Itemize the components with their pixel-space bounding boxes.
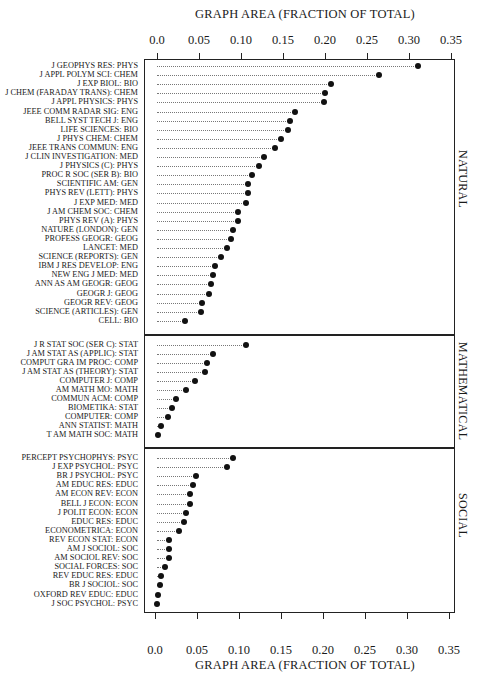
top-tick-mark [157,53,158,59]
row-label: J EXP PSYCHOL: PSYC [52,462,138,471]
leader-line [157,390,186,391]
leader-line [157,312,201,313]
top-axis-title: GRAPH AREA (FRACTION OF TOTAL) [150,7,460,22]
row-label: AM EDUC RES: EDUC [56,480,138,489]
row-label: BR J SOCIOL: SOC [69,580,138,589]
data-point [218,254,224,260]
bottom-tick-mark [155,613,156,619]
data-point [187,501,193,507]
data-point [235,218,241,224]
row-label: ECONOMETRICA: ECON [45,526,138,535]
leader-line [157,212,238,213]
row-label: AM ECON REV: ECON [55,489,138,498]
row-label: NEW ENG J MED: MED [52,270,139,279]
row-label: JEEE TRANS COMMUN: ENG [29,143,138,152]
leader-line [157,139,281,140]
data-point [249,172,255,178]
leader-line [157,75,379,76]
row-label: COMPUTER: COMP [65,412,138,421]
row-label: PHYS REV (A): PHYS [59,216,138,225]
plot-area [144,59,455,613]
row-label: JEEE COMM RADAR SIG: ENG [23,107,138,116]
data-point [173,396,179,402]
leader-line [157,363,207,364]
top-tick-label: 0.25 [356,33,378,48]
data-point [166,546,172,552]
leader-line [157,321,185,322]
section-divider [144,447,455,449]
section-divider [144,334,455,336]
row-label: LIFE SCIENCES: BIO [61,125,138,134]
leader-line [157,230,233,231]
row-label: COMPUTER J: COMP [60,376,138,385]
data-point [158,423,164,429]
leader-line [157,203,246,204]
top-tick-label: 0.0 [149,33,165,48]
data-point [183,387,189,393]
row-label: J CLIN INVESTIGATION: MED [25,152,138,161]
data-point [228,236,234,242]
top-tick-mark [241,53,242,59]
bottom-tick-label: 0.25 [354,643,376,658]
data-point [202,369,208,375]
row-label: J GEOPHYS RES: PHYS [52,61,138,70]
data-point [245,190,251,196]
data-point [155,432,161,438]
data-point [158,573,164,579]
top-tick-mark [367,53,368,59]
row-label: GEOGR J: GEOG [77,289,138,298]
top-tick-mark [409,53,410,59]
bottom-tick-label: 0.05 [186,643,208,658]
bottom-tick-label: 0.35 [438,643,460,658]
leader-line [157,184,248,185]
data-point [272,145,278,151]
row-label: EDUC RES: EDUC [71,517,138,526]
leader-line [157,275,213,276]
row-label: PHYS REV (LETT): PHYS [45,188,138,197]
row-label: SCIENCE (ARTICLES): GEN [35,307,138,316]
row-label: PROC R SOC (SER B): BIO [41,170,138,179]
top-tick-label: 0.15 [272,33,294,48]
bottom-tick-mark [197,613,198,619]
leader-line [157,266,215,267]
leader-line [157,504,190,505]
leader-line [157,66,418,67]
bottom-tick-mark [323,613,324,619]
data-point [181,519,187,525]
data-point [245,181,251,187]
data-point [376,72,382,78]
top-tick-label: 0.35 [440,33,462,48]
data-point [210,351,216,357]
bottom-axis-title: GRAPH AREA (FRACTION OF TOTAL) [150,658,460,673]
top-tick-label: 0.30 [398,33,420,48]
row-label: SOCIAL FORCES: SOC [54,562,138,571]
data-point [212,263,218,269]
leader-line [157,303,202,304]
row-label: BIOMETIKA: STAT [68,403,138,412]
leader-line [157,166,259,167]
top-tick-mark [199,53,200,59]
leader-line [157,130,288,131]
bottom-tick-label: 0.30 [396,643,418,658]
data-point [176,528,182,534]
data-point [166,537,172,543]
leader-line [157,239,231,240]
row-label: J SOC PSYCHOL: PSYC [52,599,138,608]
bottom-tick-mark [281,613,282,619]
row-label: J R STAT SOC (SER C): STAT [34,340,138,349]
row-label: BELL SYST TECH J: ENG [45,116,138,125]
row-label: J EXP BIOL: BIO [77,79,138,88]
row-label: J EXP MED: MED [74,198,138,207]
data-point [157,582,163,588]
leader-line [157,494,190,495]
data-point [224,464,230,470]
bottom-tick-label: 0.15 [270,643,292,658]
top-tick-label: 0.05 [188,33,210,48]
row-label: COMMUN ACM: COMP [51,394,138,403]
leader-line [157,157,264,158]
data-point [415,63,421,69]
top-tick-mark [283,53,284,59]
bottom-tick-label: 0.0 [147,643,163,658]
leader-line [157,121,290,122]
data-point [210,272,216,278]
